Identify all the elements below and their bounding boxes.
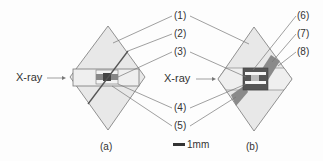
callout-4: (4) (174, 103, 186, 113)
diagram-figure: (1) (2) (3) (4) (5) (6) (7) (8) X-ray X-… (0, 0, 323, 161)
xray-label-a: X-ray (16, 72, 42, 82)
scale-bar-label: 1mm (187, 140, 209, 150)
callout-8: (8) (297, 47, 309, 57)
callout-7: (7) (297, 29, 309, 39)
caption-a: (a) (100, 142, 112, 152)
panel-a-diamond (70, 26, 145, 130)
callout-6: (6) (297, 11, 309, 21)
caption-b: (b) (246, 142, 258, 152)
callout-5: (5) (174, 121, 186, 131)
callout-3: (3) (174, 47, 186, 57)
callout-1: (1) (174, 11, 186, 21)
panel-b-diamond (218, 27, 292, 131)
callout-2: (2) (174, 29, 186, 39)
diagram-graphics (0, 0, 323, 161)
scale-bar (173, 143, 185, 146)
xray-label-b: X-ray (164, 73, 190, 83)
